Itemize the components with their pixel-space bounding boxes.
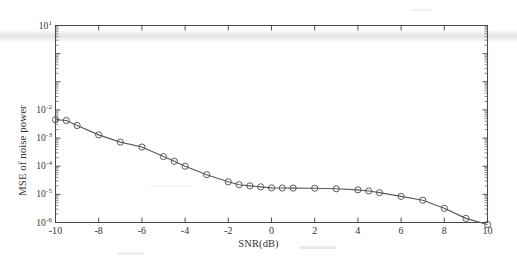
x-tick-label: -2 bbox=[208, 225, 248, 236]
x-tick-label: 8 bbox=[424, 225, 464, 236]
x-tick-label: 2 bbox=[295, 225, 335, 236]
y-tick-exponent: -4 bbox=[46, 159, 52, 167]
y-tick-exponent: -3 bbox=[46, 131, 52, 139]
y-tick-label: 101 bbox=[18, 19, 52, 31]
data-series bbox=[52, 117, 490, 228]
chart-figure: -10-8-6-4-20246810 10110-210-310-410-510… bbox=[0, 0, 517, 271]
x-tick-label: 4 bbox=[338, 225, 378, 236]
y-tick-mantissa: 10 bbox=[36, 218, 46, 228]
y-tick-label: 10-6 bbox=[18, 216, 52, 228]
x-tick-label: 0 bbox=[252, 225, 292, 236]
x-axis-title: SNR(dB) bbox=[0, 238, 517, 249]
x-tick-label: -4 bbox=[165, 225, 205, 236]
y-tick-exponent: -5 bbox=[46, 187, 52, 195]
y-tick-exponent: -2 bbox=[46, 103, 52, 111]
axes-frame bbox=[56, 26, 488, 223]
y-tick-mantissa: 10 bbox=[39, 21, 49, 31]
y-tick-exponent: -6 bbox=[46, 216, 52, 224]
x-tick-label: 10 bbox=[468, 225, 508, 236]
axis-ticks bbox=[56, 26, 488, 223]
y-tick-exponent: 1 bbox=[48, 19, 52, 27]
y-axis-title: MSE of noise power bbox=[16, 105, 28, 196]
y-tick-mantissa: 10 bbox=[36, 161, 46, 171]
x-tick-label: 6 bbox=[381, 225, 421, 236]
x-tick-label: -6 bbox=[122, 225, 162, 236]
y-tick-mantissa: 10 bbox=[36, 190, 46, 200]
x-tick-label: -8 bbox=[79, 225, 119, 236]
y-tick-mantissa: 10 bbox=[36, 133, 46, 143]
y-tick-mantissa: 10 bbox=[36, 105, 46, 115]
